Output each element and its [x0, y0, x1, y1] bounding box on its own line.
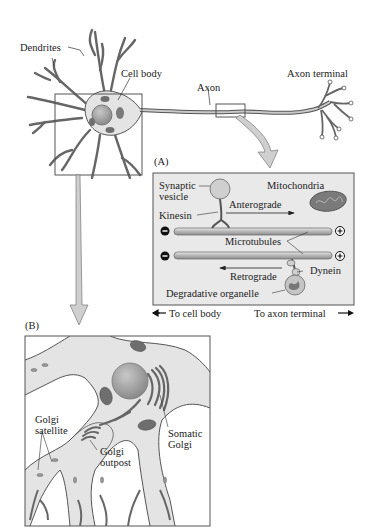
label-somatic-golgi-1: Somatic [168, 428, 202, 439]
label-axon: Axon [197, 82, 220, 93]
neuron-overview [28, 30, 353, 178]
label-somatic-golgi-2: Golgi [168, 439, 192, 450]
label-to-cell-body: To cell body [169, 308, 221, 319]
label-golgi-satellite-2: satellite [35, 425, 68, 436]
label-axon-terminal: Axon terminal [287, 68, 348, 79]
panel-a-letter: (A) [154, 156, 169, 167]
label-golgi-satellite-1: Golgi [35, 414, 59, 425]
label-mitochondria: Mitochondria [267, 180, 324, 191]
label-anterograde: Anterograde [229, 199, 281, 210]
label-kinesin: Kinesin [159, 210, 192, 221]
label-synaptic-vesicle-2: vesicle [159, 191, 188, 202]
label-retrograde: Retrograde [230, 271, 277, 282]
microtubule-top [174, 228, 332, 235]
zoom-arrow-b [70, 175, 88, 325]
label-cell-body: Cell body [121, 68, 162, 79]
label-synaptic-vesicle-1: Synaptic [159, 180, 196, 191]
axon-terminal-drawing [318, 83, 350, 137]
label-golgi-outpost-1: Golgi [100, 446, 124, 457]
label-golgi-outpost-2: outpost [100, 457, 131, 468]
synaptic-vesicle [210, 179, 230, 199]
nucleus-b [112, 363, 148, 399]
label-microtubules: Microtubules [225, 236, 281, 247]
zoom-arrow-a [236, 115, 278, 168]
microtubule-bottom [174, 252, 332, 259]
label-to-axon-terminal: To axon terminal [254, 308, 326, 319]
label-dynein: Dynein [310, 265, 341, 276]
panel-b-letter: (B) [25, 320, 39, 331]
label-degradative-organelle: Degradative organelle [166, 288, 259, 299]
label-dendrites: Dendrites [20, 42, 61, 53]
